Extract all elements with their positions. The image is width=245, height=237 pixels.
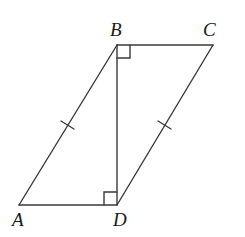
tick-mark-ab xyxy=(61,121,74,129)
vertex-label-d: D xyxy=(112,209,127,230)
right-angle-marker-d xyxy=(104,192,117,205)
parallelogram-diagram: A B C D xyxy=(0,0,245,237)
vertex-label-c: C xyxy=(203,19,216,40)
vertex-label-a: A xyxy=(10,209,24,230)
tick-mark-cd xyxy=(158,121,171,129)
right-angle-marker-b xyxy=(117,45,130,58)
vertex-label-b: B xyxy=(110,19,122,40)
